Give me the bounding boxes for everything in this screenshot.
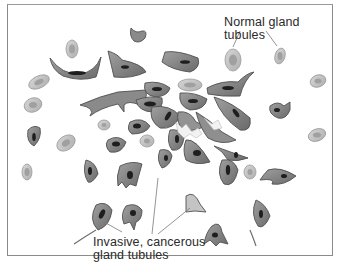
invasive-label-line2: gland tubules (93, 249, 205, 262)
cancerous-cells (50, 28, 254, 168)
normal-gland-label: Normal gland tubules (224, 16, 340, 42)
invasive-gland-label: Invasive, cancerous gland tubules (93, 236, 205, 262)
